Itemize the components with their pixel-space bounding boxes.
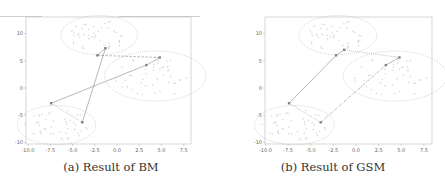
data-point — [36, 122, 38, 124]
waypoint-marker — [288, 102, 290, 104]
data-point — [315, 114, 317, 116]
data-point — [269, 132, 271, 134]
data-point — [137, 93, 139, 95]
waypoint-marker — [385, 64, 387, 66]
data-point — [380, 82, 382, 84]
data-point — [327, 38, 329, 40]
data-point — [358, 40, 360, 42]
data-point — [142, 94, 144, 96]
data-point — [78, 33, 80, 35]
cluster-boundary — [299, 16, 377, 55]
data-point — [330, 36, 332, 38]
data-point — [371, 89, 373, 91]
data-point — [121, 66, 123, 68]
data-point — [397, 60, 399, 62]
data-point — [402, 75, 404, 77]
x-tick-label: 0.0 — [113, 147, 121, 153]
data-point — [290, 120, 292, 122]
data-point — [397, 62, 399, 64]
x-tick-label: -5.0 — [68, 147, 78, 153]
data-point — [261, 124, 263, 126]
data-point — [279, 114, 281, 116]
data-point — [145, 85, 147, 87]
data-point — [153, 63, 155, 65]
data-point — [145, 73, 147, 75]
data-point — [272, 133, 274, 135]
cluster-boundary — [255, 105, 335, 144]
data-point — [119, 40, 121, 42]
data-point — [406, 60, 408, 62]
data-point — [306, 137, 308, 139]
data-point — [40, 133, 42, 135]
data-point — [300, 139, 302, 141]
x-tick-label: 5.0 — [158, 147, 166, 153]
data-point — [38, 114, 40, 116]
data-point — [311, 122, 313, 124]
data-point — [108, 21, 110, 23]
data-point — [24, 124, 26, 126]
data-point — [119, 45, 121, 47]
data-point — [79, 36, 81, 38]
data-point — [120, 35, 122, 37]
data-point — [376, 93, 378, 95]
data-point — [407, 69, 409, 71]
data-point — [107, 27, 109, 29]
data-point — [364, 79, 366, 81]
x-tick-label: 5.0 — [397, 147, 405, 153]
data-point — [170, 76, 172, 78]
data-point — [317, 135, 319, 137]
path-edge — [386, 57, 400, 65]
scatter-plot-gsm: -10.0-7.5-5.0-2.50.02.55.07.5-10-50510 — [222, 0, 445, 160]
data-point — [410, 60, 412, 62]
data-point — [157, 78, 159, 80]
data-point — [347, 42, 349, 44]
data-point — [109, 45, 111, 47]
data-point — [303, 132, 305, 134]
data-point — [73, 35, 75, 37]
data-point — [305, 110, 307, 112]
data-point — [348, 45, 350, 47]
waypoint-marker — [145, 64, 147, 66]
data-point — [276, 114, 278, 116]
data-point — [159, 69, 161, 71]
cluster-boundary — [61, 16, 138, 55]
data-point — [408, 82, 410, 84]
data-point — [370, 75, 372, 77]
x-tick-label: -10.0 — [259, 147, 272, 153]
data-point — [98, 30, 100, 32]
data-point — [168, 82, 170, 84]
data-point — [311, 33, 313, 35]
data-point — [401, 67, 403, 69]
data-point — [78, 135, 80, 137]
data-point — [48, 113, 50, 115]
caption-bm: (a) Result of BM — [0, 160, 222, 174]
data-point — [131, 89, 133, 91]
data-point — [91, 36, 93, 38]
data-point — [393, 66, 395, 68]
subfigure-bm: -10.0-7.5-5.0-2.50.02.55.07.5-10-50510 (… — [0, 0, 222, 184]
data-point — [140, 82, 142, 84]
data-point — [179, 80, 181, 82]
data-point — [88, 28, 90, 30]
data-point — [288, 133, 290, 135]
x-tick-label: -7.5 — [45, 147, 55, 153]
data-point — [311, 41, 313, 43]
data-point — [173, 82, 175, 84]
data-point — [368, 75, 370, 77]
data-point — [396, 78, 398, 80]
data-point — [157, 62, 159, 64]
y-tick-label: -10 — [254, 139, 262, 145]
data-point — [414, 93, 416, 95]
data-point — [53, 120, 55, 122]
data-point — [61, 138, 63, 140]
data-point — [80, 131, 82, 133]
data-point — [39, 124, 41, 126]
data-point — [75, 26, 77, 28]
data-point — [360, 35, 362, 37]
data-point — [59, 131, 61, 133]
data-point — [333, 37, 335, 39]
waypoint-marker — [81, 121, 83, 123]
data-point — [316, 133, 318, 135]
data-point — [81, 28, 83, 30]
y-tick-label: 0 — [20, 85, 23, 91]
